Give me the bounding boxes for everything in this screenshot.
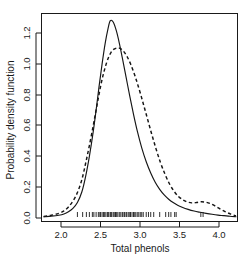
x-tick-label-0: 2.0 — [54, 229, 67, 240]
y-tick-label-6: 1.2 — [21, 26, 32, 39]
density-plot-figure: 0.0 0.2 0.4 0.6 0.8 1.0 1.2 Probability … — [0, 0, 251, 260]
y-tick-label-3: 0.6 — [21, 118, 32, 131]
x-tick-label-3: 3.5 — [173, 229, 186, 240]
x-tick-label-1: 2.5 — [94, 229, 107, 240]
density-curve-dashed — [44, 48, 236, 216]
y-axis: 0.0 0.2 0.4 0.6 0.8 1.0 1.2 Probability … — [5, 26, 41, 224]
y-axis-title: Probability density function — [5, 61, 16, 180]
x-tick-label-2: 3.0 — [133, 229, 146, 240]
x-axis-title: Total phenols — [111, 243, 170, 254]
y-tick-label-4: 0.8 — [21, 88, 32, 101]
x-tick-label-4: 4.0 — [212, 229, 225, 240]
density-curve-solid — [44, 20, 236, 217]
y-tick-label-1: 0.2 — [21, 180, 32, 193]
y-tick-label-2: 0.4 — [21, 149, 32, 162]
data-rug-marks — [77, 212, 203, 217]
y-tick-label-5: 1.0 — [21, 57, 32, 70]
x-axis: 2.0 2.5 3.0 3.5 4.0 Total phenols — [54, 222, 225, 254]
y-tick-marks — [36, 33, 41, 218]
chart-canvas: 0.0 0.2 0.4 0.6 0.8 1.0 1.2 Probability … — [0, 0, 251, 260]
plot-frame — [42, 14, 238, 222]
y-tick-label-0: 0.0 — [21, 211, 32, 224]
x-tick-marks — [61, 222, 219, 227]
